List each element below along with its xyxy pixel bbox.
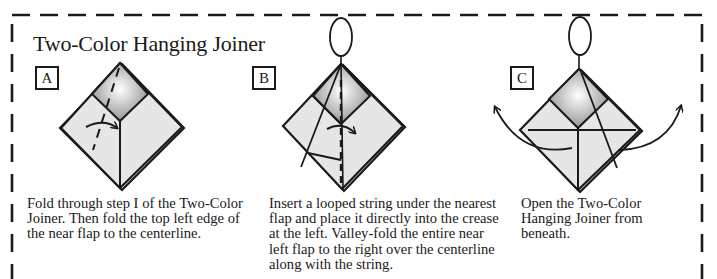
- step-label-a: A: [35, 66, 59, 90]
- caption-line: Joiner. Then fold the top left edge of: [27, 211, 257, 226]
- caption-line: at the left. Valley-fold the entire near: [269, 226, 514, 241]
- step-label-b: B: [252, 66, 276, 90]
- caption-line: Fold through step I of the Two-Color: [27, 196, 257, 211]
- string-loop-icon: [569, 17, 591, 55]
- step-c-diagram: [495, 17, 681, 192]
- step-b-diagram: [283, 18, 405, 191]
- caption-line: the near flap to the centerline.: [27, 226, 257, 241]
- caption-line: Open the Two-Color: [521, 196, 671, 211]
- step-b-caption: Insert a looped string under the nearest…: [269, 196, 514, 272]
- step-label-c: C: [510, 66, 534, 90]
- caption-line: Insert a looped string under the nearest: [269, 196, 514, 211]
- step-a-caption: Fold through step I of the Two-Color Joi…: [27, 196, 257, 242]
- caption-line: beneath.: [521, 226, 671, 241]
- step-c-caption: Open the Two-Color Hanging Joiner from b…: [521, 196, 671, 242]
- page-title: Two-Color Hanging Joiner: [33, 31, 265, 57]
- caption-line: Hanging Joiner from: [521, 211, 671, 226]
- caption-line: flap and place it directly into the crea…: [269, 211, 514, 226]
- caption-line: along with the string.: [269, 257, 514, 272]
- step-a-diagram: [60, 63, 184, 190]
- string-loop-icon: [330, 18, 352, 56]
- caption-line: left flap to the right over the centerli…: [269, 242, 514, 257]
